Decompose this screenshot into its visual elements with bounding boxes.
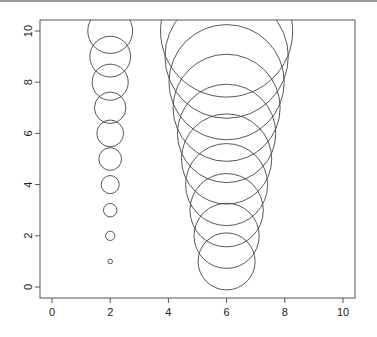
data-point-circle bbox=[104, 204, 117, 217]
x-tick-label: 0 bbox=[49, 306, 55, 318]
data-point-circle bbox=[173, 54, 280, 161]
y-axis: 0246810 bbox=[22, 25, 40, 290]
x-tick-label: 4 bbox=[165, 306, 171, 318]
plot-area bbox=[88, 0, 293, 290]
data-point-circle bbox=[90, 36, 131, 77]
data-point-circle bbox=[169, 25, 284, 140]
x-axis: 0246810 bbox=[49, 298, 349, 318]
data-point-circle bbox=[194, 203, 259, 268]
data-point-circle bbox=[97, 120, 124, 147]
data-point-circle bbox=[108, 259, 113, 264]
data-point-circle bbox=[186, 144, 268, 226]
y-tick-label: 2 bbox=[22, 233, 34, 239]
x-tick-label: 8 bbox=[282, 306, 288, 318]
y-tick-label: 8 bbox=[22, 79, 34, 85]
x-tick-label: 10 bbox=[337, 306, 349, 318]
data-point-circle bbox=[177, 84, 275, 182]
plot-frame bbox=[40, 20, 355, 298]
data-point-circle bbox=[190, 174, 263, 247]
data-point-circle bbox=[92, 64, 128, 100]
data-point-circle bbox=[88, 9, 133, 54]
data-point-circle bbox=[106, 231, 115, 240]
y-tick-label: 4 bbox=[22, 182, 34, 188]
data-point-circle bbox=[99, 148, 122, 171]
y-tick-label: 10 bbox=[22, 25, 34, 37]
x-tick-label: 2 bbox=[107, 306, 113, 318]
data-point-circle bbox=[165, 0, 288, 118]
y-tick-label: 6 bbox=[22, 130, 34, 136]
data-point-circle bbox=[101, 176, 119, 194]
bubble-chart: 0246810 0246810 bbox=[0, 0, 377, 337]
x-tick-label: 6 bbox=[224, 306, 230, 318]
y-tick-label: 0 bbox=[22, 284, 34, 290]
